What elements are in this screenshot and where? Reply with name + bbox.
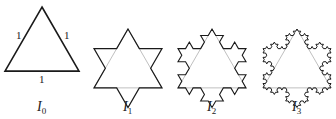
- side-label-bottom: 1: [39, 73, 45, 85]
- stage-label-i2: I2: [206, 99, 216, 116]
- guide-triangle-i2: [178, 29, 246, 88]
- koch-curves: [5, 7, 331, 108]
- side-label-right: 1: [64, 29, 70, 41]
- stage-labels: I0 I1 I2 I3: [36, 99, 302, 116]
- stage-label-i1: I1: [122, 99, 132, 116]
- guide-triangle-i3: [263, 29, 331, 88]
- side-label-left: 1: [16, 29, 22, 41]
- koch-curve-i1: [94, 29, 162, 108]
- guide-triangle-i1: [94, 29, 162, 88]
- guide-triangles: [94, 29, 331, 88]
- koch-snowflake-figure: 1 1 1 I0 I1 I2 I3: [0, 0, 336, 119]
- stage-label-i0: I0: [36, 99, 47, 116]
- koch-curve-i2: [178, 29, 246, 108]
- koch-curve-i3: [263, 29, 331, 108]
